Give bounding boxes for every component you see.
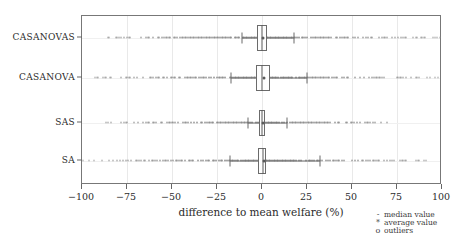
xtick-label-7: 75 (390, 191, 402, 202)
xtick-mark-1 (126, 184, 127, 189)
xtick-label-4: 0 (258, 191, 264, 202)
xtick-label-2: −50 (161, 191, 181, 202)
mean-marker-sas (261, 122, 264, 125)
gridline-x-5 (307, 16, 308, 183)
xtick-mark-5 (306, 184, 307, 189)
xtick-mark-6 (351, 184, 352, 189)
whisker-sas (248, 123, 288, 124)
whisker-cap-low-sa (229, 156, 230, 167)
plot-area (81, 15, 441, 184)
ytick-mark-3 (77, 160, 82, 161)
xtick-mark-4 (261, 184, 262, 189)
whisker-cap-high-casanova (307, 73, 308, 84)
legend-item-outliers: ooutliers (374, 227, 437, 235)
whisker-cap-high-sa (319, 156, 320, 167)
xtick-mark-8 (441, 184, 442, 189)
xtick-label-3: −25 (206, 191, 226, 202)
ytick-label-sa: SA (62, 155, 75, 165)
gridline-x-1 (127, 16, 128, 183)
whisker-cap-low-casanovas (242, 33, 243, 44)
whisker-cap-low-casanova (231, 73, 232, 84)
whisker-casanovas (242, 38, 294, 39)
gridline-x-2 (172, 16, 173, 183)
boxplot-figure: −100−75−50−250255075100difference to mea… (0, 0, 464, 240)
legend-marker-circle-icon: o (374, 227, 382, 235)
ytick-mark-1 (77, 77, 82, 78)
xtick-label-5: 25 (300, 191, 312, 202)
xtick-label-8: 100 (432, 191, 450, 202)
xtick-label-6: 50 (345, 191, 357, 202)
ytick-mark-0 (77, 37, 82, 38)
whisker-cap-low-sas (247, 118, 248, 129)
mean-marker-sa (262, 160, 265, 163)
whisker-sa (230, 161, 320, 162)
xtick-label-0: −100 (68, 191, 94, 202)
x-axis-title: difference to mean welfare (%) (178, 206, 343, 218)
gridline-x-3 (217, 16, 218, 183)
ytick-mark-2 (77, 122, 82, 123)
xtick-label-1: −75 (116, 191, 136, 202)
ytick-label-sas: SAS (55, 117, 75, 127)
legend-label: outliers (384, 227, 413, 235)
gridline-x-7 (397, 16, 398, 183)
mean-marker-casanova (262, 77, 265, 80)
ytick-label-casanova: CASANOVA (19, 72, 75, 82)
ytick-label-casanovas: CASANOVAS (13, 32, 75, 42)
legend: -median value*average valueooutliers (374, 211, 437, 235)
whisker-cap-high-sas (287, 118, 288, 129)
xtick-mark-3 (216, 184, 217, 189)
xtick-mark-7 (396, 184, 397, 189)
xtick-mark-2 (171, 184, 172, 189)
whisker-cap-high-casanovas (294, 33, 295, 44)
mean-marker-casanovas (261, 37, 264, 40)
xtick-mark-0 (81, 184, 82, 189)
gridline-x-6 (352, 16, 353, 183)
